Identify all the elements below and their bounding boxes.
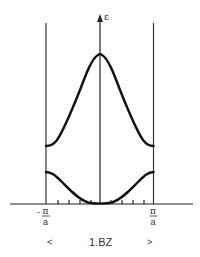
zone-left-marker: < bbox=[47, 237, 52, 247]
zone-label: 1.BZ bbox=[89, 236, 113, 248]
left-boundary-label: - π a bbox=[37, 206, 50, 227]
zone-right-marker: > bbox=[147, 237, 152, 247]
left-label-denominator: a bbox=[43, 217, 48, 227]
right-boundary-label: π a bbox=[150, 206, 158, 227]
energy-axis-arrowhead bbox=[97, 14, 103, 22]
energy-axis-label: ε bbox=[104, 12, 109, 22]
right-label-numerator: π bbox=[150, 206, 156, 216]
band-structure-diagram: ε - π a π a < 1.BZ > bbox=[0, 0, 200, 257]
left-label-numerator: π bbox=[43, 206, 49, 216]
right-label-denominator: a bbox=[151, 217, 156, 227]
left-label-sign: - bbox=[37, 207, 40, 217]
